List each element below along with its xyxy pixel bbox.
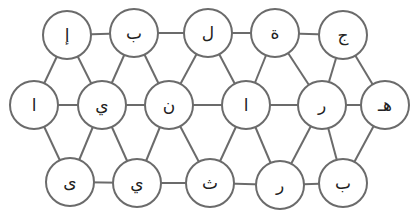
node-t1: إ bbox=[43, 11, 91, 59]
node-label: ب bbox=[126, 23, 142, 43]
node-b2: ي bbox=[113, 159, 161, 207]
node-label: هـ bbox=[377, 95, 392, 115]
node-label: ي bbox=[130, 173, 143, 194]
node-label: ب bbox=[335, 173, 351, 193]
node-label: ا bbox=[244, 95, 249, 115]
node-b4: ر bbox=[256, 161, 304, 209]
node-label: إ bbox=[65, 25, 70, 45]
graph-canvas: إبلةجاينارهـىيثرب bbox=[0, 0, 416, 216]
node-t5: ج bbox=[319, 11, 367, 59]
node-t4: ة bbox=[251, 9, 299, 57]
node-b1: ى bbox=[46, 158, 94, 206]
node-label: ى bbox=[63, 172, 76, 192]
node-m5: ر bbox=[298, 81, 346, 129]
node-m3: ن bbox=[145, 81, 193, 129]
node-label: ن bbox=[163, 95, 175, 115]
node-label: ي bbox=[95, 95, 108, 116]
node-b3: ث bbox=[186, 159, 234, 207]
node-t3: ل bbox=[184, 9, 232, 57]
node-label: ة bbox=[271, 23, 280, 43]
node-label: ر bbox=[275, 175, 284, 195]
node-label: ث bbox=[202, 173, 218, 193]
nodes-layer: إبلةجاينارهـىيثرب bbox=[10, 9, 409, 209]
node-m4: ا bbox=[222, 81, 270, 129]
node-m1: ا bbox=[10, 81, 58, 129]
node-label: ا bbox=[32, 95, 37, 115]
node-b5: ب bbox=[319, 159, 367, 207]
node-label: ر bbox=[317, 95, 326, 115]
node-t2: ب bbox=[110, 9, 158, 57]
node-m6: هـ bbox=[361, 81, 409, 129]
node-label: ل bbox=[202, 23, 214, 43]
node-label: ج bbox=[338, 25, 349, 46]
node-m2: ي bbox=[78, 81, 126, 129]
